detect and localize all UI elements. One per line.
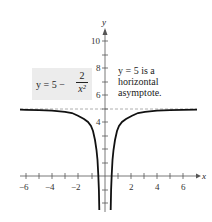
x-tick-label: 6 [181,183,186,192]
equation-numerator: 2 [76,70,88,81]
x-tick-label: 4 [155,183,160,192]
curve-left-branch [20,110,99,210]
x-tick-label: −2 [71,183,81,192]
x-tick-label: −6 [19,183,29,192]
y-tick-label: 6 [96,91,101,100]
equation-denominator: x² [76,84,88,94]
annotation-line: y = 5 is a [118,65,162,76]
y-tick-label: 10 [91,37,100,46]
x-tick-label: −4 [45,183,55,192]
equation-lhs: y = 5 − [36,79,65,90]
y-axis-label: y [102,17,106,28]
y-tick-label: 8 [96,64,101,73]
equation-fraction: 2 x² [76,70,88,94]
y-axis-arrow-icon [103,28,108,35]
x-tick-label: 2 [129,183,134,192]
y-tick-label: 4 [96,118,101,127]
annotation-line: horizontal [118,76,162,87]
asymptote-annotation: y = 5 is a horizontal asymptote. [118,65,162,98]
curve-right-branch [111,110,197,210]
x-axis-label: x [202,171,206,182]
x-axis-arrow-icon [196,174,201,179]
annotation-line: asymptote. [118,87,162,98]
